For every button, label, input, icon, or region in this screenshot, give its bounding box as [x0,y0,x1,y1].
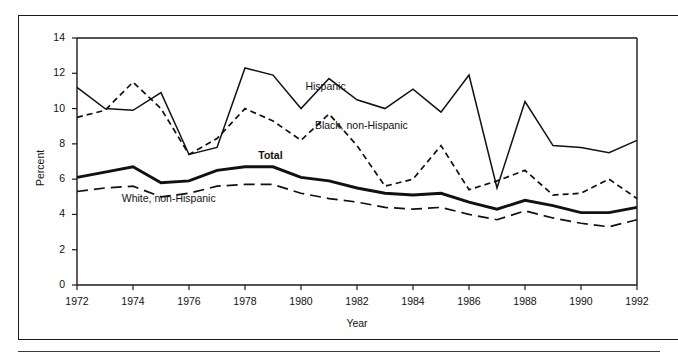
series-annotation: White, non-Hispanic [122,192,216,204]
x-tick-label: 1990 [553,295,609,307]
y-tick-label: 2 [31,243,65,255]
series-annotation: Hispanic [305,80,345,92]
x-tick-label: 1984 [385,295,441,307]
x-tick-label: 1976 [161,295,217,307]
series-line-total [77,167,637,213]
x-tick-label: 1974 [105,295,161,307]
y-tick-label: 8 [31,137,65,149]
y-tick-label: 0 [31,278,65,290]
x-tick-label: 1986 [441,295,497,307]
y-tick-label: 10 [31,102,65,114]
series-annotation: Black, non-Hispanic [315,119,408,131]
y-tick-label: 4 [31,207,65,219]
series-annotation: Total [258,149,282,161]
y-axis-title: Percent [34,149,46,185]
x-tick-label: 1980 [273,295,329,307]
y-tick-label: 14 [31,31,65,43]
figure-root: 0246810121419721974197619781980198219841… [0,0,678,358]
x-tick-label: 1988 [497,295,553,307]
x-tick-label: 1972 [49,295,105,307]
x-tick-label: 1978 [217,295,273,307]
footer-rule [18,351,660,352]
y-tick-label: 12 [31,66,65,78]
x-axis-title: Year [327,317,387,329]
x-tick-label: 1992 [609,295,665,307]
x-tick-label: 1982 [329,295,385,307]
